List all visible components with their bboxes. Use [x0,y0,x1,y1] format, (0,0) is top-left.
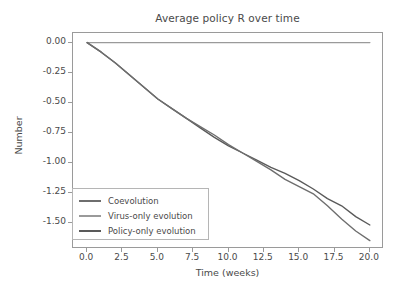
x-tick-mark [369,248,370,252]
x-tick-label: 12.5 [243,252,283,262]
x-tick-label: 5.0 [137,252,177,262]
x-tick-mark [192,248,193,252]
legend-line-swatch [79,230,101,232]
y-tick-label: -1.25 [26,186,66,196]
y-tick-label: -1.00 [26,156,66,166]
x-tick-mark [157,248,158,252]
x-tick-mark [228,248,229,252]
x-tick-mark [334,248,335,252]
y-tick-mark [68,222,72,223]
chart-title: Average policy R over time [72,12,383,24]
x-tick-label: 20.0 [349,252,389,262]
x-tick-mark [263,248,264,252]
y-tick-mark [68,72,72,73]
y-tick-label: 0.00 [26,36,66,46]
y-tick-label: -0.75 [26,126,66,136]
chart-figure: Average policy R over time Number 0.00-0… [0,0,418,295]
x-tick-mark [121,248,122,252]
x-tick-label: 10.0 [208,252,248,262]
y-axis-tick-labels: 0.00-0.25-0.50-0.75-1.00-1.25-1.50 [22,0,66,295]
x-tick-label: 15.0 [278,252,318,262]
legend-label: Policy-only evolution [108,226,196,236]
y-tick-label: -0.50 [26,96,66,106]
x-tick-label: 0.0 [66,252,106,262]
legend-label: Virus-only evolution [108,211,193,221]
y-tick-mark [68,192,72,193]
y-tick-mark [68,102,72,103]
legend-item[interactable]: Virus-only evolution [73,208,208,223]
x-tick-label: 7.5 [172,252,212,262]
y-tick-label: -1.50 [26,216,66,226]
x-axis-label: Time (weeks) [72,267,383,278]
y-tick-mark [68,132,72,133]
y-tick-mark [68,42,72,43]
legend-line-swatch [79,200,101,202]
legend-label: Coevolution [108,196,159,206]
x-tick-mark [86,248,87,252]
x-tick-mark [298,248,299,252]
x-tick-label: 2.5 [101,252,141,262]
y-tick-label: -0.25 [26,66,66,76]
legend-line-swatch [79,215,101,217]
legend-item[interactable]: Coevolution [73,193,208,208]
x-tick-label: 17.5 [314,252,354,262]
chart-legend: CoevolutionVirus-only evolutionPolicy-on… [72,188,209,240]
y-tick-mark [68,162,72,163]
legend-item[interactable]: Policy-only evolution [73,223,208,238]
